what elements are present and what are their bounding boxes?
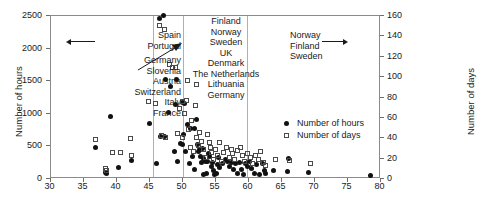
data-point-days (182, 111, 187, 116)
y-tick-mark-right (380, 56, 384, 57)
data-point-days (213, 147, 218, 152)
x-tick-label: 40 (110, 181, 120, 191)
data-point-days (163, 135, 168, 140)
y-tick-mark-right (380, 178, 384, 179)
y-tick-label-right: 80 (387, 92, 397, 102)
y-tick-mark-right (380, 97, 384, 98)
y-tick-label-right: 120 (387, 51, 402, 61)
data-point-days (232, 157, 237, 162)
y-tick-mark-right (380, 35, 384, 36)
y-tick-label-right: 160 (387, 10, 402, 20)
y-tick-mark-left (46, 178, 50, 179)
data-point-days (205, 132, 210, 137)
annotation-line: Switzerland (95, 87, 181, 98)
data-point-hours (249, 166, 254, 171)
data-point-days (287, 158, 292, 163)
x-tick-label: 65 (275, 181, 285, 191)
x-tick-label: 55 (209, 181, 219, 191)
data-point-hours (190, 154, 195, 159)
y-tick-label-left: 2500 (0, 10, 42, 20)
data-point-days (308, 161, 313, 166)
arrow-line-spain-portugal (71, 41, 95, 42)
data-point-hours (194, 117, 199, 122)
data-point-hours (187, 161, 192, 166)
y-tick-mark-left (46, 15, 50, 16)
y-tick-label-right: 20 (387, 153, 397, 163)
filled-circle-icon (284, 121, 289, 126)
x-tick-label: 35 (77, 181, 87, 191)
y-tick-label-left: 2000 (0, 43, 42, 53)
arrow-head-right-nordic-group (343, 39, 348, 45)
data-point-hours (285, 169, 290, 174)
x-tick-label: 60 (242, 181, 252, 191)
y-tick-label-right: 0 (387, 173, 392, 183)
open-square-icon (284, 133, 289, 138)
data-point-days (203, 155, 208, 160)
scatter-chart-figure: Number of hours Number of days 303540455… (0, 0, 493, 209)
data-point-days (215, 153, 220, 158)
data-point-days (128, 136, 133, 141)
data-point-days (250, 161, 255, 166)
y-tick-label-left: 0 (0, 173, 42, 183)
data-point-days (129, 153, 134, 158)
legend-label: Number of days (297, 130, 361, 140)
arrow-diagonal-germany-group (136, 42, 196, 82)
annotation-line: Norway (290, 30, 360, 41)
data-point-days (191, 149, 196, 154)
data-point-hours (237, 160, 242, 165)
annotation-nordic-group: NorwayFinlandSweden (290, 30, 360, 62)
data-point-days (258, 149, 263, 154)
arrow-head-left-spain-portugal (66, 39, 71, 45)
y-tick-label-left: 1000 (0, 108, 42, 118)
annotation-line: Italy (95, 97, 181, 108)
x-tick-label: 75 (341, 181, 351, 191)
x-tick-label: 45 (143, 181, 153, 191)
annotation-line: Sweden (290, 51, 360, 62)
data-point-days (197, 130, 202, 135)
data-point-days (217, 140, 222, 145)
annotation-line: Norway (172, 27, 280, 38)
y-tick-label-right: 100 (387, 71, 402, 81)
y-tick-label-left: 1500 (0, 75, 42, 85)
x-tick-label: 30 (44, 181, 54, 191)
data-point-days (238, 145, 243, 150)
y-tick-mark-right (380, 158, 384, 159)
annotation-line: Germany (172, 90, 280, 101)
data-point-days (242, 159, 247, 164)
data-point-days (93, 137, 98, 142)
data-point-days (263, 163, 268, 168)
data-point-hours (241, 172, 246, 177)
data-point-hours (214, 171, 219, 176)
data-point-days (194, 135, 199, 140)
data-point-days (248, 155, 253, 160)
y-tick-label-right: 140 (387, 30, 402, 40)
x-tick-label: 70 (308, 181, 318, 191)
annotation-line: Finland (290, 41, 360, 52)
data-point-days (256, 157, 261, 162)
x-tick-label: 50 (176, 181, 186, 191)
annotation-line: France (95, 108, 181, 119)
y-tick-mark-right (380, 76, 384, 77)
y-tick-label-left: 500 (0, 140, 42, 150)
data-point-days (110, 150, 115, 155)
data-point-days (180, 135, 185, 140)
y-tick-label-right: 60 (387, 112, 397, 122)
y-tick-label-right: 40 (387, 132, 397, 142)
data-point-days (201, 147, 206, 152)
y-tick-mark-right (380, 15, 384, 16)
data-point-days (219, 159, 224, 164)
legend-label: Number of hours (297, 118, 364, 128)
y-tick-mark-right (380, 137, 384, 138)
data-point-days (189, 118, 194, 123)
y-tick-mark-left (46, 48, 50, 49)
y-tick-mark-right (380, 117, 384, 118)
data-point-hours (257, 172, 262, 177)
annotation-line: Spain (95, 30, 181, 41)
data-point-days (118, 150, 123, 155)
y-tick-mark-left (46, 145, 50, 146)
data-point-days (221, 150, 226, 155)
data-point-hours (192, 167, 197, 172)
data-point-hours (252, 171, 257, 176)
data-point-hours (180, 142, 185, 147)
data-point-hours (154, 161, 159, 166)
